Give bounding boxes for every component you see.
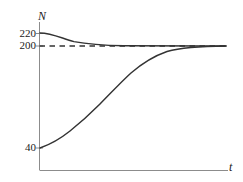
y-tick-label-40: 40 — [12, 142, 36, 153]
y-tick-label-220: 220 — [12, 28, 36, 39]
upper-solution-curve — [40, 33, 226, 46]
logistic-growth-figure: N t 220 200 40 — [0, 0, 243, 182]
lower-solution-curve — [40, 46, 226, 148]
y-axis-label: N — [38, 10, 46, 22]
plot-area — [0, 0, 243, 182]
y-tick-label-200: 200 — [12, 40, 36, 51]
x-axis-label: t — [229, 161, 232, 173]
